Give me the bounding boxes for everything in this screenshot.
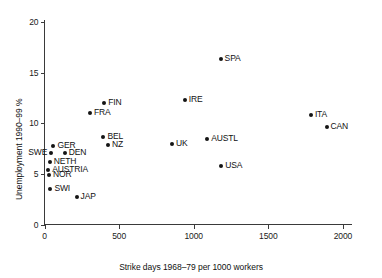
data-point-label: ITA (315, 109, 327, 119)
x-axis-title: Strike days 1968–79 per 1000 workers (119, 262, 263, 272)
data-point-marker (309, 113, 313, 117)
data-point-label: IRE (189, 94, 203, 104)
data-point-label: SWI (54, 183, 70, 193)
data-point-label: CAN (331, 121, 349, 131)
y-axis-title: Unemployment 1990–99 % (14, 99, 24, 200)
x-tick-label: 500 (112, 231, 126, 241)
data-point-marker (170, 142, 174, 146)
data-point-label: SWE (28, 147, 47, 157)
data-point-label: USA (225, 160, 242, 170)
data-point-marker (102, 101, 106, 105)
y-tick-label: 0 (19, 220, 39, 230)
data-point-label: JAP (81, 191, 96, 201)
data-point-label: NZ (112, 139, 123, 149)
x-tick-label: 1500 (259, 231, 278, 241)
data-point-marker (205, 137, 209, 141)
data-point-marker (48, 187, 52, 191)
data-point-label: SPA (225, 53, 241, 63)
data-point-label: AUSTL (211, 133, 238, 143)
data-point-label: NOR (53, 169, 71, 179)
data-point-marker (51, 144, 55, 148)
data-point-label: FIN (108, 97, 121, 107)
y-tick-label: 15 (19, 68, 39, 78)
data-point-marker (75, 195, 79, 199)
data-point-marker (88, 111, 92, 115)
x-tick-label: 1000 (184, 231, 203, 241)
data-point-marker (183, 98, 187, 102)
data-point-label: UK (176, 138, 188, 148)
data-point-label: FRA (94, 107, 111, 117)
data-point-marker (325, 125, 329, 129)
data-point-marker (106, 143, 110, 147)
data-point-marker (219, 164, 223, 168)
data-point-marker (49, 151, 53, 155)
data-point-marker (46, 168, 50, 172)
data-point-marker (48, 160, 52, 164)
x-tick-label: 2000 (334, 231, 353, 241)
data-point-marker (47, 173, 51, 177)
y-tick-label: 20 (19, 17, 39, 27)
data-point-marker (63, 151, 67, 155)
scatter-chart: 05101520 0500100015002000 SPAIREFINITAFR… (0, 0, 382, 278)
data-point-marker (219, 57, 223, 61)
data-point-marker (101, 135, 105, 139)
x-tick-label: 0 (42, 231, 47, 241)
